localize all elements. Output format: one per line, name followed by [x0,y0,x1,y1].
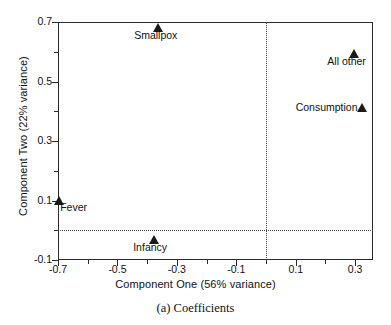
data-point-marker [357,103,367,112]
plot-area [58,22,373,260]
y-axis-minor-tick [54,111,58,112]
x-axis-tick-label: 0.1 [266,264,326,275]
data-point-label: Infancy [133,242,167,253]
x-axis-tick-label: -0.3 [147,264,207,275]
y-axis-tick-label: 0.7 [37,16,52,27]
x-axis-tick-label: -0.5 [87,264,147,275]
y-axis-tick-label: 0.1 [37,195,52,206]
x-axis-title: Component One (56% variance) [0,278,391,290]
data-point-label: Consumption [296,102,358,113]
vertical-reference-line [266,22,267,260]
horizontal-reference-line [58,230,373,231]
y-axis-minor-tick [54,171,58,172]
y-axis-minor-tick [54,52,58,53]
x-axis-tick-label: 0.3 [325,264,385,275]
data-point-label: Smallpox [134,30,177,41]
x-axis-tick-label: -0.1 [206,264,266,275]
figure-caption: (a) Coefficients [0,301,391,316]
x-axis-tick-label: -0.7 [28,264,88,275]
y-axis-title: Component Two (22% variance) [17,21,29,251]
data-point-label: All other [327,56,366,67]
y-axis-tick [52,82,58,83]
y-axis-tick [52,141,58,142]
y-axis-tick [52,22,58,23]
figure-coefficients-scatter: -0.10.10.30.50.7-0.7-0.5-0.3-0.10.10.3 S… [0,0,391,325]
y-axis-tick-label: 0.5 [37,76,52,87]
data-point-label: Fever [60,202,87,213]
y-axis-tick-label: 0.3 [37,135,52,146]
